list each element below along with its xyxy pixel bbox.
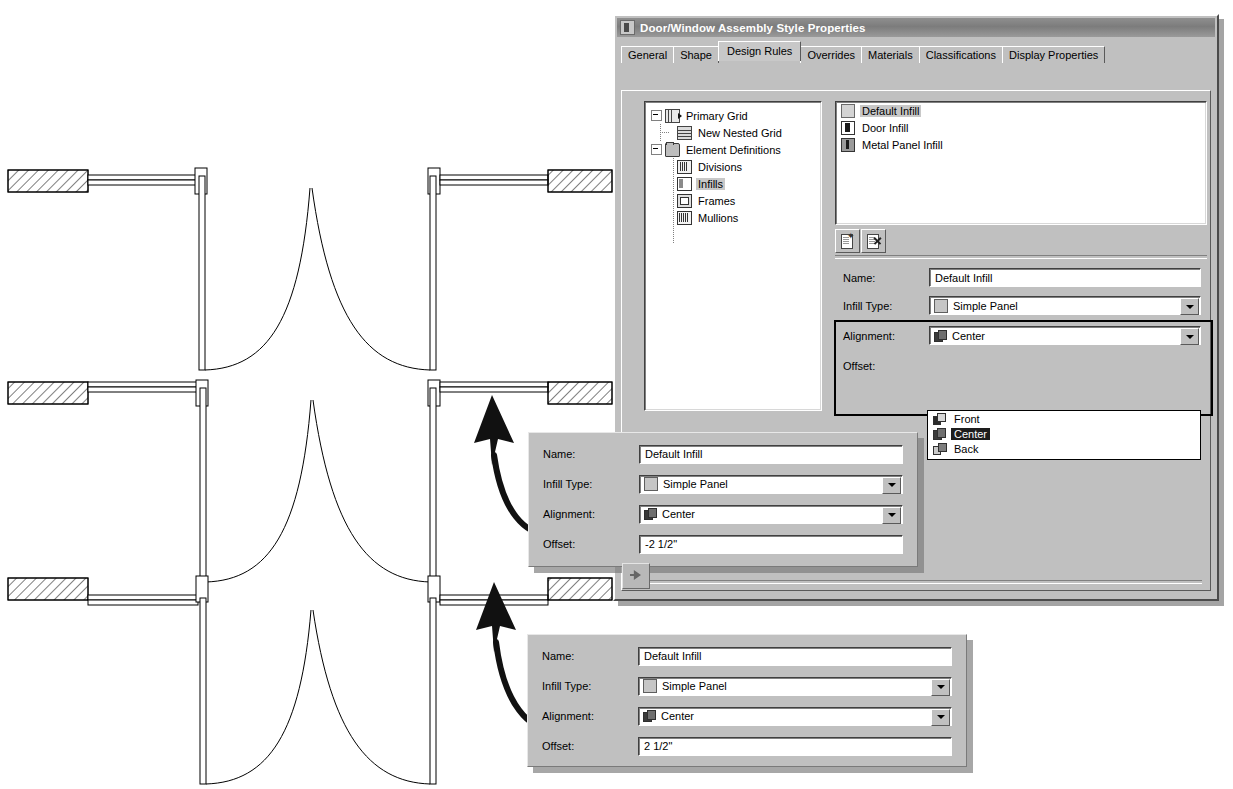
name-input[interactable]: Default Infill <box>929 268 1201 287</box>
name-row: Name: Default Infill <box>528 643 966 669</box>
sparkle-icon: ✦ <box>847 232 855 241</box>
list-item[interactable]: Metal Panel Infill <box>836 136 1206 153</box>
callout-panel-negative-offset: Name: Default Infill Infill Type: Simple… <box>528 432 918 567</box>
infill-type-label: Infill Type: <box>528 680 638 692</box>
list-item-label: Metal Panel Infill <box>860 139 945 151</box>
tab-materials[interactable]: Materials <box>861 46 920 63</box>
dialog-titlebar[interactable]: Door/Window Assembly Style Properties <box>617 18 1215 37</box>
dialog-bottom-separator <box>630 580 1202 584</box>
tab-display-properties[interactable]: Display Properties <box>1002 46 1105 63</box>
align-center-icon <box>934 330 947 342</box>
offset-label: Offset: <box>529 538 639 550</box>
alignment-dropdown-list[interactable]: Front Center Back <box>927 410 1201 460</box>
alignment-option-back[interactable]: Back <box>928 441 1200 456</box>
tab-design-rules[interactable]: Design Rules <box>718 41 801 61</box>
tab-classifications[interactable]: Classifications <box>919 46 1003 63</box>
collapse-icon[interactable] <box>651 110 662 121</box>
infill-type-select[interactable]: Simple Panel <box>639 475 903 494</box>
alignment-row: Alignment: Center <box>835 325 1207 346</box>
chevron-down-icon[interactable] <box>882 507 901 524</box>
alignment-value: Center <box>662 508 695 520</box>
infill-type-row: Infill Type: Simple Panel <box>528 673 966 699</box>
simple-panel-icon <box>644 477 658 491</box>
door-window-assembly-icon <box>620 20 635 35</box>
alignment-select[interactable]: Center <box>638 707 952 726</box>
tree-item-new-nested-grid[interactable]: New Nested Grid <box>651 124 817 141</box>
nested-grid-icon <box>677 126 692 140</box>
new-infill-button[interactable]: ✦ <box>835 229 860 253</box>
alignment-row: Alignment: Center <box>528 703 966 729</box>
tree-item-frames[interactable]: Frames <box>651 192 817 209</box>
chevron-down-icon[interactable] <box>1180 298 1199 315</box>
list-item-label: Default Infill <box>860 105 921 117</box>
chevron-down-icon[interactable] <box>931 679 950 696</box>
option-label: Back <box>951 443 981 455</box>
divisions-icon <box>677 160 692 174</box>
name-row: Name: Default Infill <box>835 267 1207 288</box>
tab-overrides[interactable]: Overrides <box>800 46 862 63</box>
delete-infill-button[interactable] <box>861 229 886 253</box>
tree-item-label: Primary Grid <box>684 110 750 122</box>
tab-strip[interactable]: General Shape Design Rules Overrides Mat… <box>621 42 1213 61</box>
door-infill-icon <box>841 121 855 135</box>
alignment-label: Alignment: <box>529 508 639 520</box>
list-toolbar[interactable]: ✦ <box>835 229 887 253</box>
tree-item-label: Element Definitions <box>684 144 783 156</box>
offset-input[interactable]: -2 1/2" <box>639 535 903 554</box>
tree-item-label: Frames <box>696 195 737 207</box>
name-input[interactable]: Default Infill <box>639 445 903 464</box>
infill-definitions-list[interactable]: Default Infill Door Infill Metal Panel I… <box>835 101 1207 225</box>
offset-row: Offset: -2 1/2" <box>529 531 917 557</box>
list-item[interactable]: Door Infill <box>836 119 1206 136</box>
element-tree[interactable]: Primary Grid New Nested Grid Element Def… <box>651 107 817 406</box>
tree-item-element-definitions[interactable]: Element Definitions <box>651 141 817 158</box>
chevron-down-icon[interactable] <box>1180 328 1199 345</box>
collapse-icon[interactable] <box>651 144 662 155</box>
list-item[interactable]: Default Infill <box>836 102 1206 119</box>
tab-general[interactable]: General <box>621 46 674 63</box>
infill-type-select[interactable]: Simple Panel <box>929 296 1201 315</box>
simple-panel-icon <box>643 679 657 693</box>
offset-input[interactable]: 2 1/2" <box>638 737 952 756</box>
alignment-value: Center <box>952 330 985 342</box>
chevron-down-icon[interactable] <box>931 709 950 726</box>
name-label: Name: <box>528 650 638 662</box>
tab-shape[interactable]: Shape <box>673 46 719 63</box>
alignment-option-center[interactable]: Center <box>928 426 1200 441</box>
tree-item-label: Mullions <box>696 212 740 224</box>
tree-item-divisions[interactable]: Divisions <box>651 158 817 175</box>
alignment-row: Alignment: Center <box>529 501 917 527</box>
infill-type-label: Infill Type: <box>835 300 929 312</box>
callout-panel-positive-offset: Name: Default Infill Infill Type: Simple… <box>527 634 967 767</box>
alignment-value: Center <box>661 710 694 722</box>
alignment-select[interactable]: Center <box>929 326 1201 345</box>
alignment-label: Alignment: <box>528 710 638 722</box>
alignment-option-front[interactable]: Front <box>928 411 1200 426</box>
offset-row: Offset: <box>835 355 1207 376</box>
tree-item-infills[interactable]: Infills <box>651 175 817 192</box>
offset-row: Offset: 2 1/2" <box>528 733 966 759</box>
align-front-icon <box>933 413 946 425</box>
element-tree-pane[interactable]: Primary Grid New Nested Grid Element Def… <box>644 101 822 411</box>
infill-type-value: Simple Panel <box>953 300 1018 312</box>
name-label: Name: <box>529 448 639 460</box>
cad-view-1 <box>8 168 612 370</box>
alignment-label: Alignment: <box>835 330 929 342</box>
tree-item-mullions[interactable]: Mullions <box>651 209 817 226</box>
alignment-select[interactable]: Center <box>639 505 903 524</box>
infill-type-row: Infill Type: Simple Panel <box>835 295 1207 316</box>
infill-type-select[interactable]: Simple Panel <box>638 677 952 696</box>
tree-item-primary-grid[interactable]: Primary Grid <box>651 107 817 124</box>
obscured-toolbar-button[interactable] <box>622 563 650 589</box>
name-input[interactable]: Default Infill <box>638 647 952 666</box>
tree-item-label: Infills <box>696 178 725 190</box>
infill-type-row: Infill Type: Simple Panel <box>529 471 917 497</box>
default-infill-icon <box>841 104 855 118</box>
list-item-label: Door Infill <box>860 122 910 134</box>
metal-panel-infill-icon <box>841 138 855 152</box>
chevron-down-icon[interactable] <box>882 477 901 494</box>
infill-type-label: Infill Type: <box>529 478 639 490</box>
align-center-icon <box>933 428 946 440</box>
name-row: Name: Default Infill <box>529 441 917 467</box>
tree-item-label: New Nested Grid <box>696 127 784 139</box>
